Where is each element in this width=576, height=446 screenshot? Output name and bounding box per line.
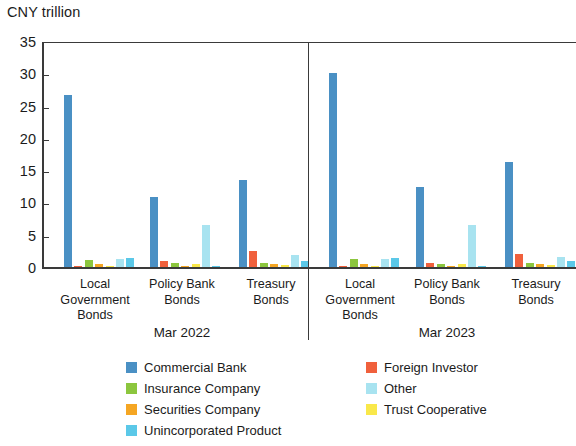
y-axis-tick-label: 35	[20, 34, 36, 50]
x-axis-category-label-line: Treasury	[223, 277, 319, 293]
bar	[447, 266, 455, 267]
x-axis-category-label: LocalGovernmentBonds	[312, 277, 408, 324]
bar	[160, 261, 168, 267]
bar	[106, 266, 114, 267]
bar	[360, 264, 368, 267]
bar	[381, 259, 389, 267]
bar	[260, 263, 268, 267]
bar	[329, 73, 337, 267]
bar	[391, 258, 399, 267]
x-axis-category-label: LocalGovernmentBonds	[47, 277, 143, 324]
legend-item[interactable]: Unincorporated Product	[126, 423, 281, 438]
legend-item[interactable]: Insurance Company	[126, 381, 260, 396]
x-axis-category-label-line: Treasury	[488, 277, 576, 293]
x-axis-category-label: Policy BankBonds	[134, 277, 230, 308]
y-axis-tick-label: 5	[28, 228, 36, 244]
bar	[350, 259, 358, 267]
bar-group	[416, 42, 489, 267]
y-axis-tick-label: 30	[20, 66, 36, 82]
x-axis-category-label-line: Government	[312, 293, 408, 309]
bar	[478, 266, 486, 267]
legend-swatch-icon	[366, 383, 377, 394]
legend-label: Other	[384, 381, 417, 396]
bar	[192, 264, 200, 267]
bar	[150, 197, 158, 267]
y-axis-tick	[43, 75, 49, 76]
x-axis-category-label-line: Bonds	[488, 293, 576, 309]
legend-swatch-icon	[366, 404, 377, 415]
y-axis-tick	[43, 140, 49, 141]
y-axis-labels: 05101520253035	[0, 0, 40, 446]
bar	[202, 225, 210, 267]
bar-group	[329, 42, 402, 267]
chart-plot-area	[42, 42, 576, 269]
period-label: Mar 2022	[117, 325, 247, 340]
bar	[85, 260, 93, 267]
y-axis-tick	[43, 204, 49, 205]
bar	[515, 254, 523, 267]
legend-label: Trust Cooperative	[384, 402, 487, 417]
bar	[249, 251, 257, 267]
legend-label: Insurance Company	[144, 381, 260, 396]
x-axis-category-label-line: Policy Bank	[134, 277, 230, 293]
bar	[95, 264, 103, 267]
x-axis-category-label-line: Bonds	[223, 293, 319, 309]
legend-item[interactable]: Securities Company	[126, 402, 260, 417]
bar	[468, 225, 476, 267]
legend-label: Securities Company	[144, 402, 260, 417]
y-axis-tick-label: 0	[28, 260, 36, 276]
y-axis-tick-label: 10	[20, 195, 36, 211]
bar	[371, 266, 379, 267]
y-axis-tick	[43, 108, 49, 109]
bar-group	[239, 42, 312, 267]
legend-item[interactable]: Trust Cooperative	[366, 402, 487, 417]
x-axis-category-label-line: Policy Bank	[399, 277, 495, 293]
bar	[557, 257, 565, 267]
legend-swatch-icon	[126, 362, 137, 373]
bar-group	[505, 42, 576, 267]
bar	[536, 264, 544, 267]
bar	[526, 263, 534, 267]
bar	[426, 263, 434, 267]
bar	[270, 264, 278, 267]
x-axis-category-label-line: Bonds	[312, 308, 408, 324]
bar	[339, 266, 347, 267]
x-axis-category-label-line: Bonds	[399, 293, 495, 309]
bar	[567, 261, 575, 267]
bar	[547, 265, 555, 267]
y-axis-tick-label: 15	[20, 163, 36, 179]
bar	[171, 263, 179, 267]
bar	[181, 266, 189, 267]
y-axis-tick	[43, 237, 49, 238]
x-axis-category-label-line: Local	[312, 277, 408, 293]
legend-label: Foreign Investor	[384, 360, 478, 375]
bar	[437, 264, 445, 267]
bar	[212, 266, 220, 267]
legend-swatch-icon	[366, 362, 377, 373]
bar-group	[64, 42, 137, 267]
legend-label: Commercial Bank	[144, 360, 247, 375]
x-axis-category-label: TreasuryBonds	[223, 277, 319, 308]
x-axis-category-label-line: Bonds	[47, 308, 143, 324]
chart-legend: Commercial BankInsurance CompanySecuriti…	[126, 360, 576, 446]
y-axis-tick	[43, 172, 49, 173]
legend-item[interactable]: Commercial Bank	[126, 360, 247, 375]
bar	[126, 258, 134, 267]
legend-item[interactable]: Foreign Investor	[366, 360, 478, 375]
bar	[116, 259, 124, 267]
period-label: Mar 2023	[382, 325, 512, 340]
legend-swatch-icon	[126, 383, 137, 394]
x-axis-category-label-line: Bonds	[134, 293, 230, 309]
y-axis-tick-label: 20	[20, 131, 36, 147]
legend-swatch-icon	[126, 404, 137, 415]
bar	[64, 95, 72, 267]
bar	[291, 255, 299, 267]
legend-swatch-icon	[126, 425, 137, 436]
x-axis-category-label: TreasuryBonds	[488, 277, 576, 308]
y-axis-tick-label: 25	[20, 99, 36, 115]
x-axis-category-label: Policy BankBonds	[399, 277, 495, 308]
x-axis-category-label-line: Local	[47, 277, 143, 293]
legend-item[interactable]: Other	[366, 381, 417, 396]
legend-label: Unincorporated Product	[144, 423, 281, 438]
bar	[281, 265, 289, 267]
